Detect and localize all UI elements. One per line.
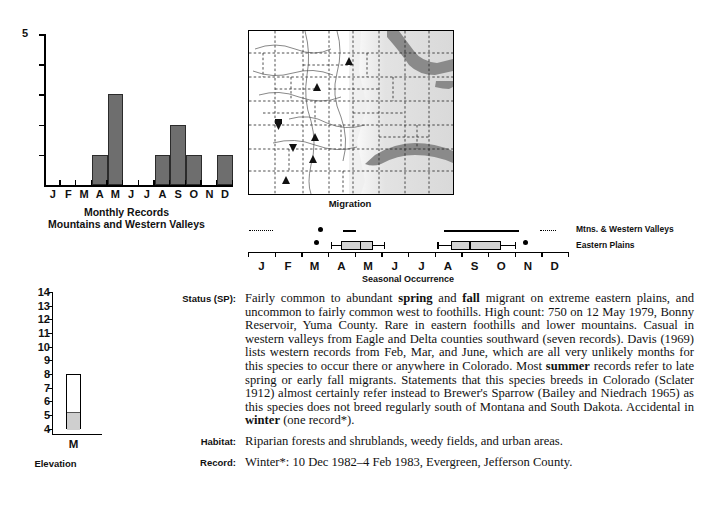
elevation-y-label: 9 — [44, 354, 50, 366]
text-entry-status: Status (SP):Fairly common to abundant sp… — [172, 292, 694, 428]
monthly-x-tick — [108, 180, 124, 186]
entry-label-status: Status (SP): — [172, 292, 245, 428]
seasonal-whisker-cap — [384, 242, 385, 249]
monthly-x-tick — [45, 180, 61, 186]
monthly-month-label: J — [45, 188, 61, 200]
record-marker-star — [275, 123, 282, 130]
monthly-x-tick — [76, 180, 92, 186]
seasonal-tick — [408, 252, 409, 257]
seasonal-box — [341, 241, 373, 250]
monthly-bar-slot — [123, 34, 139, 185]
elevation-bar — [66, 374, 81, 429]
monthly-caption-line2: Mountains and Western Valleys — [14, 218, 239, 230]
elevation-chart: M Elevation 4567891011121314 — [8, 290, 103, 470]
monthly-bar-slot — [139, 34, 155, 185]
seasonal-tick — [435, 252, 436, 257]
seasonal-month-label: M — [363, 260, 373, 272]
monthly-month-label: M — [76, 188, 92, 200]
monthly-month-label: D — [217, 188, 233, 200]
monthly-x-tick — [123, 180, 139, 186]
monthly-x-tick — [92, 180, 108, 186]
elevation-bar-shaded — [67, 412, 80, 430]
monthly-bar-slot — [155, 34, 171, 185]
seasonal-month-label: F — [284, 260, 291, 272]
monthly-month-label: O — [186, 188, 202, 200]
monthly-month-label: F — [61, 188, 77, 200]
monthly-bar-slot — [202, 34, 218, 185]
seasonal-tick — [515, 252, 516, 257]
seasonal-month-label: J — [391, 260, 397, 272]
monthly-y-tick — [39, 125, 44, 127]
elevation-y-axis — [52, 292, 53, 435]
seasonal-tick — [541, 252, 542, 257]
monthly-month-label: A — [155, 188, 171, 200]
seasonal-month-label: O — [497, 260, 506, 272]
monthly-y-tick — [39, 34, 44, 36]
monthly-x-tick — [217, 180, 233, 186]
elevation-y-label: 13 — [38, 300, 50, 312]
monthly-x-tick — [170, 180, 186, 186]
seasonal-month-label: S — [471, 260, 479, 272]
monthly-month-label: N — [202, 188, 218, 200]
migration-map-block: Migration — [248, 30, 456, 215]
text-entry-habitat: Habitat:Riparian forests and shrublands,… — [172, 435, 694, 449]
record-triangle-up — [311, 133, 319, 141]
entry-label-habitat: Habitat: — [172, 435, 245, 449]
entry-label-record: Record: — [172, 456, 245, 470]
seasonal-dotted-segment — [249, 230, 273, 231]
colorado-map — [248, 30, 454, 195]
elevation-y-label: 8 — [44, 368, 50, 380]
seasonal-record-dot — [523, 240, 528, 245]
monthly-bar-slot — [61, 34, 77, 185]
text-entry-record: Record:Winter*: 10 Dec 1982–4 Feb 1983, … — [172, 456, 694, 470]
legend-label-plains: Eastern Plains — [576, 240, 635, 250]
seasonal-month-label: J — [418, 260, 424, 272]
monthly-x-tick — [61, 180, 77, 186]
monthly-records-chart: 5 JFMAMJJASOND Monthly Records Mountains… — [14, 28, 239, 218]
monthly-x-tick — [186, 180, 202, 186]
map-svg — [249, 31, 453, 194]
seasonal-solid-segment — [343, 230, 356, 232]
seasonal-month-label: M — [310, 260, 320, 272]
record-triangle-up — [282, 176, 290, 184]
record-triangle-up — [313, 83, 321, 91]
seasonal-box-median — [360, 242, 361, 249]
monthly-bar-slot — [217, 34, 233, 185]
seasonal-month-label: D — [551, 260, 559, 272]
elevation-x-axis — [52, 434, 102, 435]
monthly-x-tick — [155, 180, 171, 186]
seasonal-month-label: A — [444, 260, 452, 272]
monthly-month-label: S — [170, 188, 186, 200]
seasonal-solid-segment — [444, 230, 519, 232]
seasonal-whisker-cap — [331, 242, 332, 249]
elevation-y-label: 14 — [38, 286, 50, 298]
elevation-y-label: 5 — [44, 409, 50, 421]
elevation-y-label: 7 — [44, 382, 50, 394]
seasonal-tick — [328, 252, 329, 257]
seasonal-tick — [461, 252, 462, 257]
monthly-bar-slot — [170, 34, 186, 185]
seasonal-dotted-segment — [540, 230, 556, 231]
monthly-bar-slot — [45, 34, 61, 185]
record-markers — [275, 57, 353, 184]
monthly-month-label: M — [108, 188, 124, 200]
elevation-y-label: 12 — [38, 313, 50, 325]
monthly-bar-slot — [186, 34, 202, 185]
seasonal-whisker-cap — [437, 242, 438, 249]
elevation-x-label: M — [69, 438, 79, 450]
seasonal-occurrence-chart: JFMAMJJASOND Seasonal Occurrence Mtns. &… — [246, 222, 701, 280]
monthly-bar-slot — [92, 34, 108, 185]
record-triangle-down — [289, 144, 297, 152]
map-caption: Migration — [248, 198, 452, 209]
monthly-bar — [170, 125, 186, 185]
entry-body-habitat: Riparian forests and shrublands, weedy f… — [245, 435, 694, 449]
entry-body-status: Fairly common to abundant spring and fal… — [245, 292, 694, 428]
elevation-y-label: 11 — [38, 327, 50, 339]
drainage-lines — [253, 31, 365, 194]
legend-label-mountains: Mtns. & Western Valleys — [576, 224, 674, 234]
seasonal-tick — [275, 252, 276, 257]
monthly-month-label: J — [139, 188, 155, 200]
monthly-month-label: J — [123, 188, 139, 200]
monthly-month-label: A — [92, 188, 108, 200]
monthly-bar — [108, 94, 124, 185]
